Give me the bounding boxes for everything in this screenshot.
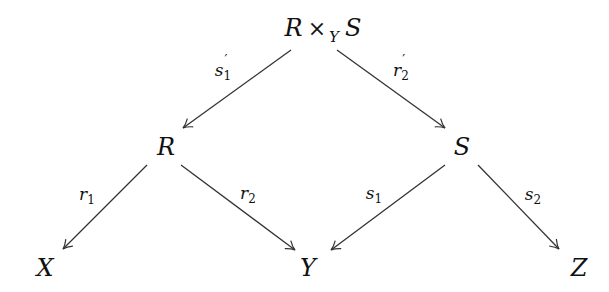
commutative-diagram: R×YS R S X Y Z s′1 r′2 r1 r2 s1 s2 xyxy=(0,0,609,292)
label-s1prime-base: s xyxy=(215,60,224,80)
times-operator: × xyxy=(308,16,326,41)
label-r2prime-base: r xyxy=(393,60,401,80)
label-s2-sub: 2 xyxy=(534,193,542,207)
label-s1prime-prime: ′ xyxy=(225,53,228,66)
label-r1-sub: 1 xyxy=(87,193,95,207)
arrow-s2 xyxy=(478,165,559,249)
arrow-r1 xyxy=(63,165,147,249)
node-s: S xyxy=(454,135,470,159)
label-s1: s1 xyxy=(366,185,382,205)
label-r2prime: r′2 xyxy=(393,62,409,82)
label-r2prime-prime: ′ xyxy=(402,53,405,66)
label-s1-base: s xyxy=(366,183,375,203)
label-r2-base: r xyxy=(240,183,248,203)
node-x: X xyxy=(36,256,53,280)
node-z: Z xyxy=(571,256,588,280)
label-s2-base: s xyxy=(525,184,534,204)
node-fiber-product-r: R xyxy=(285,14,303,42)
node-y: Y xyxy=(300,256,316,280)
arrow-s1 xyxy=(331,165,445,250)
label-r2: r2 xyxy=(240,185,256,205)
label-r2-sub: 2 xyxy=(248,192,256,206)
node-fiber-product-subscript: Y xyxy=(329,28,339,46)
label-r1: r1 xyxy=(79,186,95,206)
label-s1prime: s′1 xyxy=(215,62,231,82)
label-r1-base: r xyxy=(79,184,87,204)
node-fiber-product-s: S xyxy=(345,14,361,42)
label-r2prime-sub: 2 xyxy=(401,69,409,83)
label-s1-sub: 1 xyxy=(375,192,383,206)
arrow-r2 xyxy=(181,165,295,250)
label-s1prime-sub: 1 xyxy=(224,69,232,83)
arrow-s1prime xyxy=(183,50,291,128)
label-s2: s2 xyxy=(525,186,541,206)
node-r: R xyxy=(157,135,175,159)
node-fiber-product: R×YS xyxy=(285,16,362,45)
arrow-r2prime xyxy=(337,50,445,128)
